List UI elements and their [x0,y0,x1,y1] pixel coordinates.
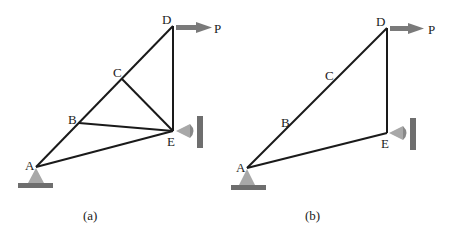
truss-diagrams: D C B E A P (a) D C B E A P (b) [0,0,455,235]
node-label-a: A [236,160,246,175]
roller-support-e [389,126,403,140]
members-b [247,28,387,168]
roller-e [190,124,194,138]
node-label-b: B [281,115,290,130]
load-label-p: P [214,21,221,36]
caption-b: (b) [305,208,320,223]
roller-e [403,126,407,140]
node-label-d: D [376,14,385,29]
node-label-c: C [113,65,122,80]
wall-e [197,116,203,148]
node-label-e: E [167,134,175,149]
caption-a: (a) [83,208,97,223]
member-b-e [79,123,173,131]
member-c-e [122,79,173,131]
arrow-shaft-a [176,25,198,30]
member-a-e [36,131,173,167]
members-a [36,26,173,167]
member-a-d [247,28,387,168]
node-label-b: B [68,112,77,127]
truss-b: D C B E A P (b) [231,14,435,223]
truss-a: D C B E A P (a) [18,12,221,223]
node-label-a: A [25,158,35,173]
ground-b [231,185,266,190]
node-label-e: E [381,136,389,151]
node-label-c: C [325,68,334,83]
roller-support-e [176,124,190,138]
ground-a [18,183,53,188]
arrow-shaft-b [390,26,410,31]
node-label-d: D [162,12,171,27]
arrow-right-icon [196,22,212,33]
wall-e [410,118,416,150]
load-label-p: P [428,22,435,37]
arrow-right-icon [408,23,424,34]
member-a-d [36,26,173,167]
member-a-e [247,133,387,168]
